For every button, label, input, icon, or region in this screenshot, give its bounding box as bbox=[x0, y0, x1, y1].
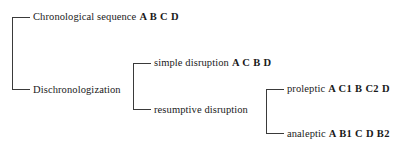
tree-node-analeptic-order: A B1 C D B2 bbox=[329, 128, 390, 139]
tree-diagram: Chronological sequenceA B C D Dischronol… bbox=[0, 0, 405, 147]
tree-node-simple-disruption-term: simple disruption bbox=[154, 57, 229, 68]
tree-node-simple-disruption: simple disruptionA C B D bbox=[154, 57, 271, 69]
bracket-resumptive bbox=[266, 89, 284, 134]
tree-node-simple-disruption-order: A C B D bbox=[232, 57, 272, 68]
bracket-root bbox=[12, 17, 30, 90]
bracket-dischronologization bbox=[133, 63, 151, 110]
tree-node-chronological-sequence-term: Chronological sequence bbox=[33, 11, 136, 22]
tree-node-chronological-sequence: Chronological sequenceA B C D bbox=[33, 11, 179, 23]
tree-node-chronological-sequence-order: A B C D bbox=[139, 11, 179, 22]
tree-node-analeptic-term: analeptic bbox=[287, 128, 326, 139]
tree-node-dischronologization: Dischronologization bbox=[33, 84, 124, 96]
tree-node-proleptic-order: A C1 B C2 D bbox=[328, 83, 390, 94]
tree-node-resumptive-disruption-term: resumptive disruption bbox=[154, 104, 248, 115]
tree-node-analeptic: analepticA B1 C D B2 bbox=[287, 128, 390, 140]
tree-node-proleptic: prolepticA C1 B C2 D bbox=[287, 83, 390, 95]
tree-node-dischronologization-term: Dischronologization bbox=[33, 84, 121, 95]
tree-node-resumptive-disruption: resumptive disruption bbox=[154, 104, 251, 116]
tree-node-proleptic-term: proleptic bbox=[287, 83, 325, 94]
